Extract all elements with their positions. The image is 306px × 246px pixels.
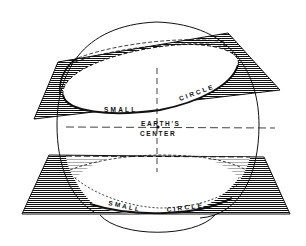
equatorial-axis — [66, 127, 275, 128]
upper-plane — [34, 33, 280, 119]
lower-plane — [22, 155, 290, 214]
small-circle-diagram: SMALL CIRCLE EARTH'S CENTER SMALL CIRCLE — [0, 0, 306, 246]
upper-small-label: SMALL — [104, 106, 137, 113]
earths-label: EARTH'S — [141, 120, 180, 127]
center-label: CENTER — [140, 130, 176, 137]
